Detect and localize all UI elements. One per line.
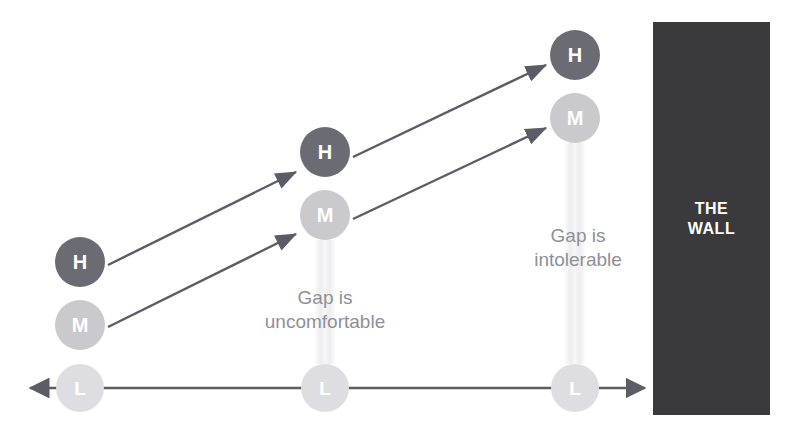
- arrow-a4: [353, 128, 546, 219]
- node-label: L: [569, 379, 581, 398]
- diagram-canvas: HMLHMLHML Gap is uncomfortable Gap is in…: [0, 0, 791, 437]
- node-label: M: [567, 108, 584, 128]
- node-label: H: [318, 142, 332, 162]
- node-h2: H: [300, 127, 350, 177]
- node-label: H: [568, 45, 582, 65]
- node-m3: M: [550, 93, 600, 143]
- node-l3: L: [551, 364, 599, 412]
- node-h3: H: [550, 30, 600, 80]
- node-label: M: [72, 315, 89, 335]
- node-m1: M: [55, 300, 105, 350]
- node-label: M: [317, 205, 334, 225]
- node-l1: L: [56, 364, 104, 412]
- arrow-a1: [108, 172, 296, 265]
- gap-label-uncomfortable: Gap is uncomfortable: [215, 286, 435, 334]
- node-label: L: [74, 379, 86, 398]
- wall-label: THE WALL: [688, 199, 735, 239]
- node-m2: M: [300, 190, 350, 240]
- arrow-a3: [353, 65, 546, 157]
- node-h1: H: [55, 237, 105, 287]
- node-label: L: [319, 379, 331, 398]
- the-wall-block: THE WALL: [653, 22, 770, 415]
- node-l2: L: [301, 364, 349, 412]
- node-label: H: [73, 252, 87, 272]
